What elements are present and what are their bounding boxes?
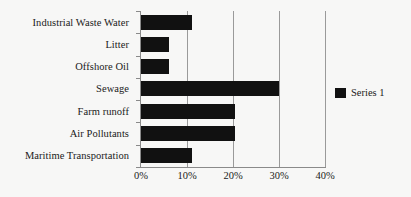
x-axis-tick-label: 10% (177, 170, 196, 182)
category-axis-labels: Industrial Waste Water Litter Offshore O… (0, 11, 134, 167)
x-axis-tick-label: 20% (223, 170, 242, 182)
y-axis-tick (136, 56, 140, 57)
x-axis-tick-label: 30% (269, 170, 288, 182)
bar (141, 15, 192, 30)
bar (141, 59, 169, 74)
bar-row (141, 148, 325, 163)
y-axis-tick (136, 122, 140, 123)
category-label: Air Pollutants (0, 128, 134, 139)
gridline (325, 11, 326, 167)
legend: Series 1 (335, 87, 385, 98)
bar-row (141, 59, 325, 74)
legend-label-series-1: Series 1 (351, 87, 385, 98)
plot-area (141, 11, 325, 167)
bar-row (141, 104, 325, 119)
category-label: Industrial Waste Water (0, 17, 134, 28)
bar-row (141, 15, 325, 30)
category-label: Farm runoff (0, 106, 134, 117)
category-label: Litter (0, 39, 134, 50)
y-axis-tick (136, 11, 140, 12)
bar-row (141, 81, 325, 96)
bar-series (141, 11, 325, 167)
y-axis-tick (136, 100, 140, 101)
legend-swatch-series-1 (335, 88, 346, 98)
y-axis-tick (136, 145, 140, 146)
x-axis-tick-labels: 0%10%20%30%40% (141, 170, 325, 186)
x-axis-tick-label: 40% (315, 170, 334, 182)
bar-chart: Industrial Waste Water Litter Offshore O… (0, 0, 411, 197)
bar (141, 37, 169, 52)
x-axis-tick-label: 0% (134, 170, 148, 182)
category-label: Maritime Transportation (0, 150, 134, 161)
category-label: Sewage (0, 83, 134, 94)
bar (141, 104, 235, 119)
bar (141, 148, 192, 163)
x-axis-line (140, 167, 326, 168)
y-axis-tick (136, 33, 140, 34)
bar-row (141, 37, 325, 52)
category-label: Offshore Oil (0, 61, 134, 72)
y-axis-tick (136, 167, 140, 168)
y-axis-tick (136, 78, 140, 79)
bar-row (141, 126, 325, 141)
bar (141, 81, 279, 96)
bar (141, 126, 235, 141)
